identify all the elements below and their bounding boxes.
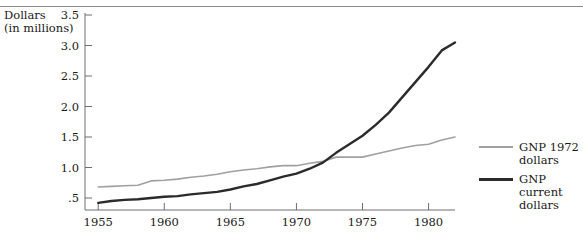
- y-axis-tick-group: .51.01.52.02.53.03.5: [61, 8, 92, 205]
- y-tick-label: 1.5: [61, 130, 79, 144]
- legend-label: GNP current dollars: [519, 173, 563, 212]
- chart-figure: Dollars (in millions) .51.01.52.02.53.03…: [0, 0, 583, 249]
- y-tick-label: 2.0: [61, 100, 79, 114]
- y-tick-label: 2.5: [61, 69, 79, 83]
- y-tick-label: 3.5: [61, 8, 79, 22]
- x-tick-label: 1960: [150, 215, 179, 229]
- x-tick-label: 1970: [282, 215, 311, 229]
- legend-item: GNP 1972 dollars: [479, 141, 583, 167]
- y-tick-label: 3.0: [61, 39, 79, 53]
- chart-legend: GNP 1972 dollars GNP current dollars: [479, 141, 583, 218]
- x-tick-label: 1965: [216, 215, 245, 229]
- x-axis-tick-group: 195519601965197019751980: [84, 203, 444, 229]
- x-tick-label: 1980: [414, 215, 443, 229]
- legend-label: GNP 1972 dollars: [519, 141, 579, 167]
- data-series-group: [98, 42, 455, 202]
- y-tick-label: .5: [68, 191, 79, 205]
- x-tick-label: 1955: [84, 215, 113, 229]
- y-tick-label: 1.0: [61, 161, 79, 175]
- legend-line-gnp-current: [479, 173, 513, 185]
- legend-item: GNP current dollars: [479, 173, 583, 212]
- legend-line-gnp-1972: [479, 141, 513, 153]
- x-tick-label: 1975: [348, 215, 377, 229]
- series-line-gnp-current-dollars: [98, 42, 455, 202]
